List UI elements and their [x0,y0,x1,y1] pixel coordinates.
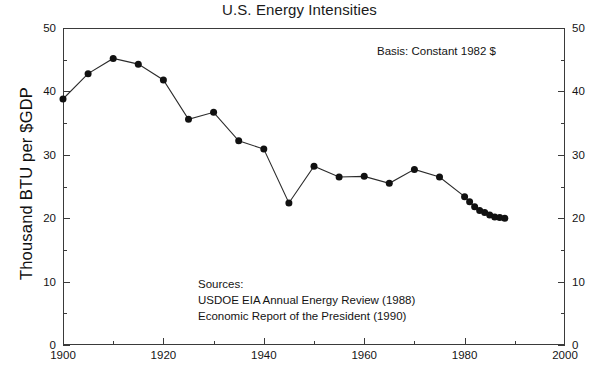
data-point [285,199,292,206]
data-point [386,180,393,187]
data-point [461,193,468,200]
data-point [85,70,92,77]
sources-line-1: USDOE EIA Annual Energy Review (1988) [198,292,415,308]
data-point [411,166,418,173]
data-point [110,55,117,62]
data-point [501,215,508,222]
data-point [235,137,242,144]
data-point [311,163,318,170]
data-point [60,96,67,103]
data-point [210,109,217,116]
chart-root: U.S. Energy Intensities Thousand BTU per… [0,0,599,371]
data-point [135,61,142,68]
data-point [185,116,192,123]
sources-annotation: Sources: USDOE EIA Annual Energy Review … [198,276,415,324]
data-point [436,173,443,180]
series-line [63,58,505,218]
sources-heading: Sources: [198,276,415,292]
series-markers [60,55,509,222]
data-point [260,146,267,153]
data-point [160,76,167,83]
basis-annotation: Basis: Constant 1982 $ [377,44,496,58]
data-point [466,198,473,205]
sources-line-2: Economic Report of the President (1990) [198,308,415,324]
data-point [336,173,343,180]
data-point [361,173,368,180]
